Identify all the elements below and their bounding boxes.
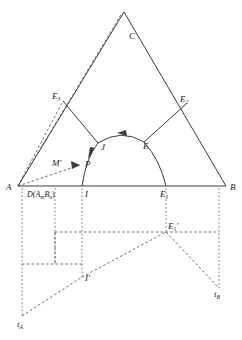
cotectic-lines xyxy=(63,101,186,186)
arrow-j-to-p xyxy=(88,147,95,159)
label-compound-d: D(AmBn) xyxy=(26,190,55,200)
phase-diagram-canvas: A B C E3 E2 E J P M′ I xyxy=(0,0,242,340)
triangle-side-cb xyxy=(124,12,226,186)
dashed-a-to-c xyxy=(18,13,122,186)
arrowhead-j-down xyxy=(88,147,95,159)
liquidus-e1prime-to-tb xyxy=(166,232,219,288)
liquidus-ta-to-iprime xyxy=(22,277,82,316)
label-e2: E2 xyxy=(179,94,189,105)
cotectic-e3-j xyxy=(63,101,98,143)
label-vertex-b: B xyxy=(230,182,236,192)
diagram-labels: A B C E3 E2 E J P M′ I xyxy=(5,31,236,330)
label-e-ternary: E xyxy=(142,141,149,151)
ternary-triangle xyxy=(18,12,226,186)
arrow-m-to-p xyxy=(71,161,80,169)
label-tb: tB xyxy=(214,289,221,300)
label-i: I xyxy=(84,189,89,199)
binary-section xyxy=(22,232,219,316)
cotectic-e2-e xyxy=(144,104,186,142)
liquidus-iprime-to-e1prime xyxy=(82,232,166,277)
triangle-construction-lines xyxy=(18,13,122,186)
arrowhead-m-right xyxy=(71,161,80,169)
label-i-prime: I′ xyxy=(84,273,91,283)
phase-diagram-figure: A B C E3 E2 E J P M′ I xyxy=(0,0,242,340)
label-e3: E3 xyxy=(51,91,61,102)
label-j: J xyxy=(101,142,106,152)
label-ta: tA xyxy=(17,319,24,330)
label-p: P xyxy=(84,159,91,169)
label-e1: E1 xyxy=(159,189,169,200)
label-e1-prime: E1′ xyxy=(167,221,179,232)
label-vertex-c: C xyxy=(129,31,136,41)
label-m-prime: M′ xyxy=(51,158,63,168)
label-vertex-a: A xyxy=(5,182,12,192)
